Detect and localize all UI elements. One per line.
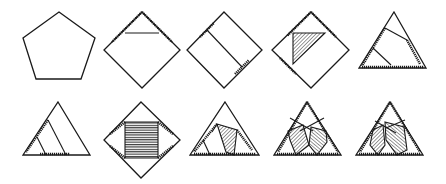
panel-square-shaded-square (104, 102, 180, 178)
panel-triangle-segments (359, 12, 426, 68)
dissection-diagram (0, 0, 446, 184)
panel-triangle-shaded-quad (190, 102, 259, 155)
panel-square-strip (187, 12, 262, 88)
panel-triangle-two-kites (274, 102, 341, 155)
panel-triangle-parallels (23, 102, 90, 155)
panel-pentagon (23, 12, 95, 79)
panel-triangle-shaded-overlap (356, 102, 423, 155)
panel-square-shaded-triangle (272, 12, 349, 88)
panel-square-triangle-cut (104, 12, 180, 88)
